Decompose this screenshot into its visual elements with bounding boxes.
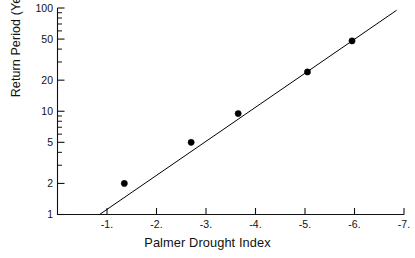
y-tick-label: 50 [41, 33, 53, 45]
y-tick-label: 100 [35, 2, 53, 14]
x-axis-ticks [107, 208, 404, 215]
y-tick-label: 2 [47, 177, 53, 189]
data-point [121, 180, 127, 186]
y-tick-label: 1 [47, 208, 53, 220]
chart-figure: 125102050100 -1.-2.-3.-4.-5.-6.-7. Retur… [0, 0, 415, 258]
return-period-scatter-plot: 125102050100 -1.-2.-3.-4.-5.-6.-7. [0, 0, 415, 258]
x-tick-label: -5. [299, 218, 311, 230]
y-tick-label: 20 [41, 74, 53, 86]
y-axis-title-text: Return Period (Years) [9, 0, 23, 97]
x-tick-label: -3. [200, 218, 212, 230]
y-axis-ticks [58, 8, 65, 215]
x-tick-label: -4. [249, 218, 261, 230]
x-axis-title-text: Palmer Drought Index [144, 235, 270, 250]
data-point [188, 139, 194, 145]
y-tick-label: 10 [41, 105, 53, 117]
data-point [304, 69, 310, 75]
data-point [349, 38, 355, 44]
x-tick-label: -1. [101, 218, 113, 230]
y-axis-title: Return Period (Years) [6, 0, 24, 131]
y-tick-label: 5 [47, 136, 53, 148]
x-tick-label: -2. [150, 218, 162, 230]
x-tick-label: -7. [398, 218, 410, 230]
x-axis-title: Palmer Drought Index [0, 233, 415, 251]
y-axis-tick-labels: 125102050100 [35, 2, 53, 221]
x-axis-tick-labels: -1.-2.-3.-4.-5.-6.-7. [101, 218, 410, 230]
data-point [235, 110, 241, 116]
data-point-series [121, 38, 355, 187]
x-tick-label: -6. [348, 218, 360, 230]
